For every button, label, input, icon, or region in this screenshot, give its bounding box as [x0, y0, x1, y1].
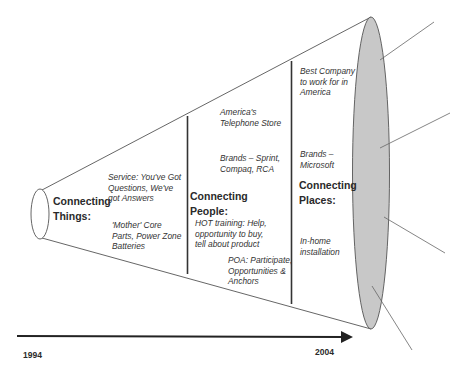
item-line: Compaq, RCA	[220, 164, 280, 175]
item-line: Microsoft	[300, 160, 334, 171]
stage-title-people: Connecting People:	[190, 189, 248, 219]
item-line: tell about product	[195, 239, 267, 250]
item-line: POA: Participate,	[228, 255, 292, 266]
stage-title-things: Connecting Things:	[53, 194, 111, 224]
stage-item-best-company: Best Company to work for in America	[300, 66, 355, 98]
stage-title-line: Places:	[299, 193, 357, 208]
stage-item-in-home-installation: In-home installation	[300, 236, 340, 257]
stage-title-line: Connecting	[53, 194, 111, 209]
item-line: got Answers	[108, 193, 181, 204]
stage-title-places: Connecting Places:	[299, 178, 357, 208]
item-line: America	[300, 87, 355, 98]
item-line: opportunity to buy,	[195, 229, 267, 240]
item-line: HOT training: Help,	[195, 218, 267, 229]
stage-title-line: People:	[190, 204, 248, 219]
item-line: Telephone Store	[220, 118, 281, 129]
item-line: In-home	[300, 236, 340, 247]
item-line: Anchors	[228, 276, 292, 287]
timeline-arrow-head	[341, 331, 353, 343]
item-line: Service: You've Got	[108, 172, 181, 183]
item-line: Batteries	[112, 241, 181, 252]
end-ellipse	[353, 17, 390, 329]
item-line: Best Company	[300, 66, 355, 77]
stage-title-line: Connecting	[299, 178, 357, 193]
stage-item-mother-core: 'Mother' Core Parts, Power Zone Batterie…	[112, 220, 181, 252]
stage-item-poa: POA: Participate, Opportunities & Anchor…	[228, 255, 292, 287]
item-line: 'Mother' Core	[112, 220, 181, 231]
stage-title-line: Connecting	[190, 189, 248, 204]
item-line: America's	[220, 107, 281, 118]
callout-line-1	[380, 22, 434, 60]
timeline-start-year: 1994	[23, 350, 42, 360]
stage-item-service: Service: You've Got Questions, We've got…	[108, 172, 181, 204]
stage-title-line: Things:	[53, 209, 111, 224]
item-line: Opportunities &	[228, 266, 292, 277]
timeline-end-year: 2004	[315, 347, 334, 357]
stage-item-americas-telephone-store: America's Telephone Store	[220, 107, 281, 128]
item-line: Parts, Power Zone	[112, 231, 181, 242]
item-line: installation	[300, 247, 340, 258]
stage-item-hot-training: HOT training: Help, opportunity to buy, …	[195, 218, 267, 250]
item-line: Questions, We've	[108, 183, 181, 194]
timeline-arrow-shaft	[17, 336, 343, 337]
start-ellipse	[31, 189, 49, 239]
item-line: Brands –	[300, 149, 334, 160]
callout-line-3	[384, 217, 445, 253]
stage-item-brands-microsoft: Brands – Microsoft	[300, 149, 334, 170]
callout-line-2	[380, 113, 450, 148]
stage-item-brands-sprint: Brands – Sprint, Compaq, RCA	[220, 153, 280, 174]
item-line: to work for in	[300, 77, 355, 88]
item-line: Brands – Sprint,	[220, 153, 280, 164]
